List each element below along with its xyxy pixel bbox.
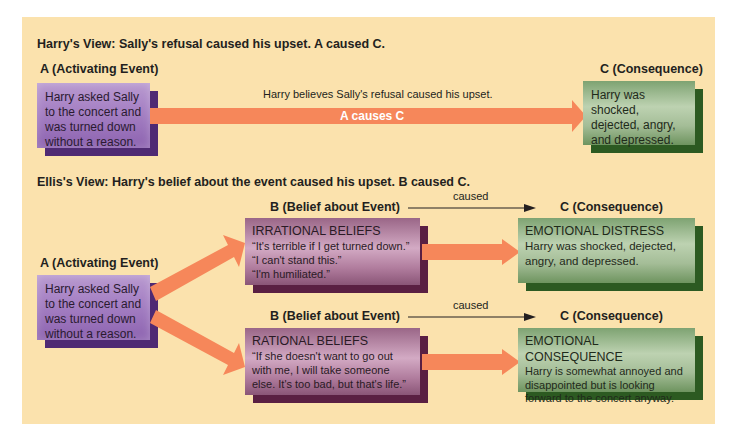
emotional-consequence-title: EMOTIONAL CONSEQUENCE <box>525 333 688 365</box>
rational-belief-line: with me, I will take someone <box>252 363 413 377</box>
harry-c-text: Harry was shocked, dejected, angry, and … <box>591 88 676 147</box>
row1-caused-arrow-icon <box>408 203 536 213</box>
irrational-belief-line: “I can't stand this.” <box>252 253 413 267</box>
harry-a-text: Harry asked Sally to the concert and was… <box>45 90 141 149</box>
irrational-belief-line: “I'm humiliated.” <box>252 267 413 281</box>
row2-b-label: B (Belief about Event) <box>270 309 400 323</box>
branch-arrows-icon <box>140 225 255 385</box>
row2-c-label: C (Consequence) <box>560 309 663 323</box>
emotional-consequence-box: EMOTIONAL CONSEQUENCE Harry is somewhat … <box>518 328 695 392</box>
row2-caused-label: caused <box>453 299 488 311</box>
rational-belief-line: else. It's too bad, but that's life.” <box>252 377 413 391</box>
irrational-beliefs-title: IRRATIONAL BELIEFS <box>252 223 413 239</box>
rational-beliefs-title: RATIONAL BELIEFS <box>252 333 413 349</box>
row1-caused-label: caused <box>453 190 488 202</box>
rational-belief-line: “If she doesn't want to go out <box>252 349 413 363</box>
emotional-consequence-text: Harry is somewhat annoyed and disappoint… <box>525 365 688 406</box>
ellis-view-heading: Ellis's View: Harry's belief about the e… <box>37 175 470 189</box>
emotional-distress-text: Harry was shocked, dejected, angry, and … <box>525 239 688 268</box>
emotional-distress-box: EMOTIONAL DISTRESS Harry was shocked, de… <box>518 218 695 283</box>
ellis-a-box: Harry asked Sally to the concert and was… <box>37 275 150 340</box>
irrational-belief-line: “It's terrible if I get turned down.” <box>252 239 413 253</box>
harry-arrow-label: A causes C <box>340 109 404 123</box>
row1-b-label: B (Belief about Event) <box>270 200 400 214</box>
irrational-beliefs-box: IRRATIONAL BELIEFS “It's terrible if I g… <box>245 218 420 285</box>
harry-arrow-caption: Harry believes Sally's refusal caused hi… <box>263 88 493 100</box>
harry-a-label: A (Activating Event) <box>40 62 158 76</box>
ellis-a-text: Harry asked Sally to the concert and was… <box>45 282 141 341</box>
row2-caused-arrow-icon <box>408 312 536 322</box>
harry-a-box: Harry asked Sally to the concert and was… <box>37 83 150 148</box>
emotional-distress-title: EMOTIONAL DISTRESS <box>525 223 688 239</box>
harry-c-label: C (Consequence) <box>600 62 703 76</box>
rational-beliefs-box: RATIONAL BELIEFS “If she doesn't want to… <box>245 328 420 395</box>
row1-c-label: C (Consequence) <box>560 200 663 214</box>
harry-view-heading: Harry's View: Sally's refusal caused his… <box>37 37 385 51</box>
harry-c-box: Harry was shocked, dejected, angry, and … <box>583 81 695 145</box>
row2-b-to-c-arrow-icon <box>422 349 520 375</box>
row1-b-to-c-arrow-icon <box>422 239 520 265</box>
